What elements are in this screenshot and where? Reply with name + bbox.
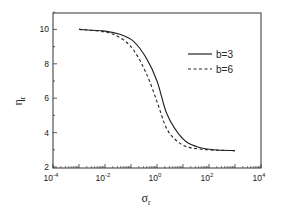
y-tick-label: 8 xyxy=(44,59,49,69)
legend-label-b6: b=6 xyxy=(216,64,233,75)
x-tick-label: 10-4 xyxy=(44,172,59,183)
x-tick-label: 104 xyxy=(253,172,266,183)
x-axis-ticks: 10-410-2100102104 xyxy=(44,164,266,183)
y-tick-label: 4 xyxy=(44,128,49,138)
svg-text:ηr: ηr xyxy=(11,96,27,105)
series-layer xyxy=(79,29,235,150)
y-axis-title: ηr xyxy=(11,96,27,105)
x-tick-label: 102 xyxy=(201,172,214,183)
y-tick-label: 6 xyxy=(44,93,49,103)
series-line-b-6 xyxy=(79,29,235,150)
legend-label-b3: b=3 xyxy=(216,49,233,60)
series-line-b-3 xyxy=(79,29,235,150)
y-tick-label: 10 xyxy=(40,24,50,34)
y-axis-ticks: 246810 xyxy=(40,12,57,172)
x-axis-title: σr xyxy=(141,191,150,207)
x-tick-label: 10-2 xyxy=(96,172,111,183)
plot-frame xyxy=(53,13,261,168)
line-chart: 246810 10-410-2100102104 ηr σr b=3 b=6 xyxy=(0,0,282,217)
y-tick-label: 2 xyxy=(44,162,49,172)
x-tick-label: 100 xyxy=(149,172,162,183)
legend: b=3 b=6 xyxy=(188,49,233,75)
